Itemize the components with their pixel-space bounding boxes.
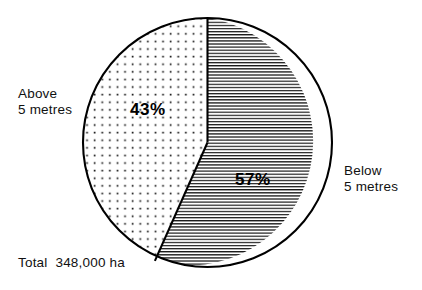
slice-percent-below-5-metres: 57% <box>235 170 271 190</box>
slice-label-above-line2: 5 metres <box>18 102 72 117</box>
slice-percent-above-5-metres: 43% <box>130 100 166 120</box>
pie-chart-figure <box>0 0 422 290</box>
slice-label-below-5-metres: Below5 metres <box>344 163 398 195</box>
slice-label-below-line1: Below <box>344 163 382 178</box>
chart-page: Above5 metres Below5 metres Total 348,00… <box>0 0 422 290</box>
total-caption: Total 348,000 ha <box>18 255 125 271</box>
slice-label-below-line2: 5 metres <box>344 179 398 194</box>
slice-label-above-5-metres: Above5 metres <box>18 86 72 118</box>
slice-label-above-line1: Above <box>18 86 57 101</box>
